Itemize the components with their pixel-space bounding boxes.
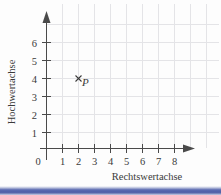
y-tick-label: 2 [32, 110, 37, 121]
y-axis-arrow-icon [43, 11, 51, 23]
y-axis-title: Hochwertachse [6, 59, 17, 124]
x-tick-label: 7 [156, 156, 161, 167]
x-tick-label: 1 [60, 156, 65, 167]
x-axis-title: Rechtswertachse [112, 171, 183, 182]
y-tick-label: 1 [32, 128, 37, 139]
y-tick-label: 6 [32, 38, 37, 49]
x-tick-label: 6 [140, 156, 145, 167]
coordinate-plot: 1 2 3 4 5 6 7 8 1 2 3 4 5 6 0 P Rechtswe… [0, 0, 221, 186]
x-tick-label: 3 [92, 156, 97, 167]
coordinate-system-figure: 1 2 3 4 5 6 7 8 1 2 3 4 5 6 0 P Rechtswe… [0, 0, 221, 186]
x-tick-label: 8 [172, 156, 177, 167]
bottom-accent-bar [0, 186, 221, 195]
grid-lines-horizontal [47, 25, 220, 133]
y-tick-label: 5 [32, 56, 37, 67]
y-tick-label: 3 [32, 92, 37, 103]
y-axis-tick-labels: 1 2 3 4 5 6 [32, 38, 38, 139]
x-axis-arrow-icon [183, 145, 195, 153]
x-tick-label: 4 [108, 156, 114, 167]
x-axis-tick-labels: 1 2 3 4 5 6 7 8 [60, 156, 177, 167]
x-tick-label: 5 [124, 156, 129, 167]
y-tick-label: 4 [32, 74, 38, 85]
origin-label: 0 [35, 156, 40, 167]
point-label-p: P [81, 76, 89, 88]
x-tick-label: 2 [76, 156, 81, 167]
